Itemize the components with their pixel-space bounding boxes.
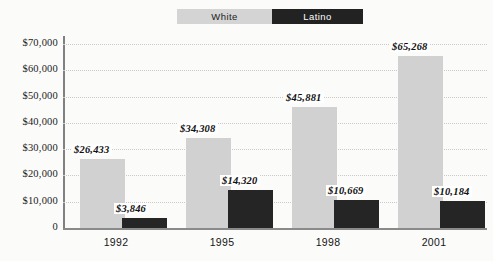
bar-value-label: $45,881 (284, 92, 324, 103)
y-axis-tick-label: $20,000 (2, 168, 58, 179)
x-axis-tick-label: 1992 (63, 236, 169, 248)
bar-white-2001[interactable] (398, 56, 443, 228)
y-axis-tick-label: 0 (2, 221, 58, 232)
bar-latino-1995[interactable] (228, 190, 273, 228)
bar-latino-1992[interactable] (122, 218, 167, 228)
bar-white-1998[interactable] (292, 107, 337, 228)
y-axis-tick-label: $30,000 (2, 142, 58, 153)
legend-label-latino: Latino (303, 11, 331, 22)
legend-item-white[interactable]: White (177, 9, 272, 24)
bar-value-label: $65,268 (390, 41, 430, 52)
x-axis-tick-label: 1998 (275, 236, 381, 248)
y-axis-tick-label: $50,000 (2, 90, 58, 101)
x-axis-tick-label: 1995 (169, 236, 275, 248)
y-axis-tick-label: $60,000 (2, 63, 58, 74)
bar-value-label: $26,433 (72, 144, 112, 155)
y-axis-tick-label: $10,000 (2, 195, 58, 206)
legend-label-white: White (211, 11, 237, 22)
y-axis-tick-label: $70,000 (2, 37, 58, 48)
bar-value-label: $34,308 (178, 123, 218, 134)
bar-value-label: $10,669 (326, 185, 366, 196)
bar-value-label: $14,320 (220, 175, 260, 186)
y-axis-tick-label: $40,000 (2, 116, 58, 127)
bar-latino-1998[interactable] (334, 200, 379, 228)
bar-value-label: $10,184 (432, 186, 472, 197)
y-axis-labels: $70,000$60,000$50,000$40,000$30,000$20,0… (0, 36, 58, 229)
bar-white-1992[interactable] (80, 159, 125, 228)
bar-latino-2001[interactable] (440, 201, 485, 228)
bar-value-label: $3,846 (114, 203, 148, 214)
legend-item-latino[interactable]: Latino (272, 9, 363, 24)
x-axis-tick-label: 2001 (381, 236, 487, 248)
x-axis-labels: 1992199519982001 (63, 236, 487, 254)
chart-legend: White Latino (177, 9, 363, 24)
plot-area: $26,433$3,846$34,308$14,320$45,881$10,66… (63, 36, 487, 228)
bar-chart: White Latino $70,000$60,000$50,000$40,00… (0, 0, 493, 261)
x-axis-line (63, 228, 487, 230)
